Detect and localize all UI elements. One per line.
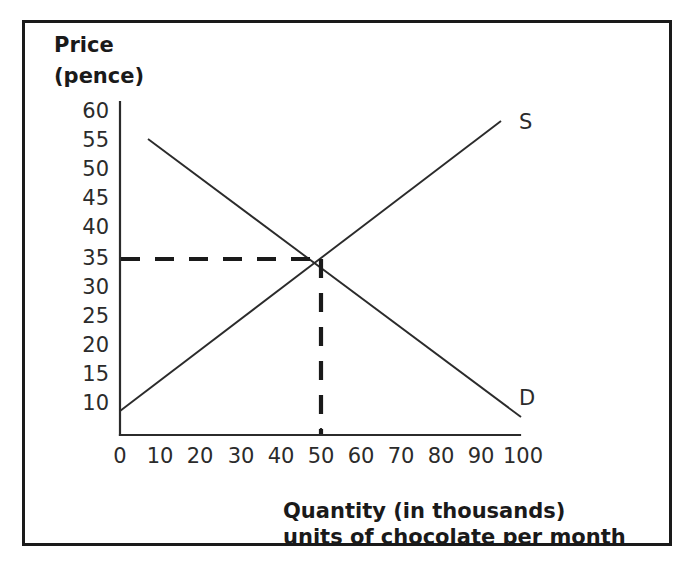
- y-tick-label-45: 45: [82, 186, 109, 210]
- supply-curve: [120, 121, 501, 411]
- y-tick-label-30: 30: [82, 275, 109, 299]
- y-tick-label-40: 40: [82, 215, 109, 239]
- y-tick-label-20: 20: [82, 333, 109, 357]
- x-tick-label-80: 80: [428, 444, 455, 468]
- x-tick-label-60: 60: [348, 444, 375, 468]
- y-tick-label-60: 60: [82, 99, 109, 123]
- x-tick-label-30: 30: [228, 444, 255, 468]
- x-tick-label-100: 100: [503, 444, 543, 468]
- y-tick-label-50: 50: [82, 157, 109, 181]
- figure-page: Price (pence) 60 55 50 45 40 35 30 25 20…: [0, 0, 699, 568]
- demand-curve: [148, 139, 521, 417]
- x-tick-label-50: 50: [308, 444, 335, 468]
- y-tick-label-10: 10: [82, 391, 109, 415]
- y-tick-label-35: 35: [82, 246, 109, 270]
- y-axis-title-line2: (pence): [54, 64, 144, 88]
- y-tick-label-25: 25: [82, 304, 109, 328]
- x-tick-label-70: 70: [388, 444, 415, 468]
- x-tick-label-20: 20: [187, 444, 214, 468]
- x-tick-label-40: 40: [268, 444, 295, 468]
- supply-curve-label: S: [519, 110, 532, 134]
- x-tick-label-90: 90: [468, 444, 495, 468]
- x-axis-caption-line1: Quantity (in thousands): [283, 499, 565, 523]
- supply-demand-chart: Price (pence) 60 55 50 45 40 35 30 25 20…: [25, 23, 669, 543]
- figure-border: Price (pence) 60 55 50 45 40 35 30 25 20…: [22, 20, 672, 546]
- x-tick-label-0: 0: [113, 444, 126, 468]
- y-tick-label-15: 15: [82, 362, 109, 386]
- demand-curve-label: D: [519, 386, 535, 410]
- y-tick-label-55: 55: [82, 128, 109, 152]
- y-axis-title-line1: Price: [54, 33, 114, 57]
- x-axis-caption-line2: units of chocolate per month: [283, 525, 626, 543]
- x-tick-label-10: 10: [147, 444, 174, 468]
